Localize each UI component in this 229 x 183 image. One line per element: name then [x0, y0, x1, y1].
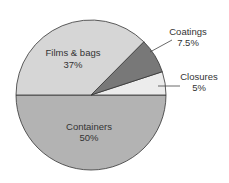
label-coatings-pct: 7.5%: [177, 37, 199, 48]
label-coatings-name: Coatings: [169, 26, 207, 37]
label-containers-pct: 50%: [79, 132, 99, 143]
label-containers-name: Containers: [66, 121, 112, 132]
label-closures-name: Closures: [180, 71, 218, 82]
pie-slices: [16, 20, 166, 170]
pie-chart: Films & bags 37% Coatings 7.5% Closures …: [0, 0, 229, 183]
label-closures-pct: 5%: [192, 82, 206, 93]
coatings-leader-line: [150, 40, 172, 52]
label-films-name: Films & bags: [46, 47, 101, 58]
label-films-pct: 37%: [63, 59, 83, 70]
